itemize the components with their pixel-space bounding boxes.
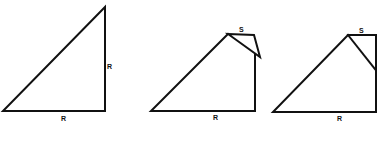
- figure-2-flipped-corner: S R: [151, 26, 260, 121]
- diagram-canvas: R R S R S R: [0, 0, 378, 144]
- figure-1-right-triangle: R R: [3, 7, 112, 122]
- triangle-outline: [3, 7, 105, 111]
- label-top-s: S: [239, 26, 244, 33]
- label-bottom-r: R: [337, 115, 342, 122]
- trapezoid-outline: [151, 34, 255, 111]
- fold-line: [348, 35, 375, 69]
- figure-3-folded-corner: S R: [273, 27, 376, 122]
- label-bottom-r: R: [213, 114, 218, 121]
- label-bottom-r: R: [61, 115, 66, 122]
- label-right-r: R: [107, 63, 112, 70]
- flipped-corner-triangle: [228, 34, 260, 57]
- trapezoid-outline: [273, 35, 376, 112]
- label-top-s: S: [359, 27, 364, 34]
